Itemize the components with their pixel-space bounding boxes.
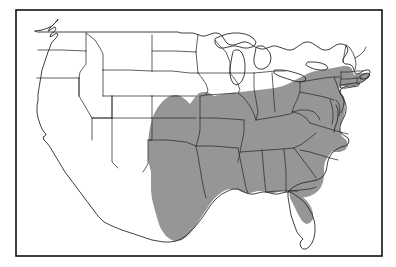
us-range-map-svg: [0, 0, 396, 267]
map-figure: [0, 0, 396, 267]
